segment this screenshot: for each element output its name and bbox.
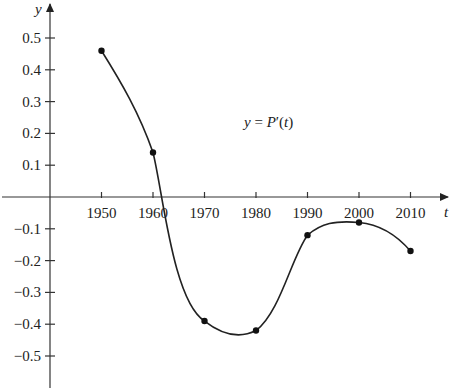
y-tick-label: 0.1	[22, 157, 41, 173]
y-tick-label: 0.2	[22, 125, 41, 141]
y-tick-label: 0.3	[22, 94, 41, 110]
y-tick-label: 0.4	[22, 62, 41, 78]
y-tick-label: −0.2	[14, 253, 41, 269]
y-tick-label: −0.1	[14, 221, 41, 237]
x-ticks: 1950196019701980199020002010	[87, 192, 426, 221]
data-point	[407, 248, 413, 254]
x-tick-label: 2000	[344, 205, 374, 221]
data-point	[201, 318, 207, 324]
y-tick-label: 0.5	[22, 30, 41, 46]
x-tick-label: 2010	[396, 205, 426, 221]
y-tick-label: −0.4	[14, 316, 42, 332]
curve-annotation: y = P′(t)	[242, 114, 293, 131]
x-tick-label: 1970	[190, 205, 220, 221]
data-point	[253, 327, 259, 333]
x-axis-label: t	[444, 204, 449, 220]
y-tick-label: −0.5	[14, 348, 41, 364]
x-tick-label: 1990	[293, 205, 323, 221]
data-points	[98, 48, 413, 334]
y-tick-label: −0.3	[14, 284, 41, 300]
data-point	[304, 232, 310, 238]
data-point	[150, 149, 156, 155]
x-tick-label: 1980	[241, 205, 271, 221]
chart-canvas: 0.50.40.30.20.1−0.1−0.2−0.3−0.4−0.5 1950…	[0, 0, 456, 391]
x-tick-label: 1950	[87, 205, 117, 221]
data-point	[356, 219, 362, 225]
y-axis-label: y	[33, 1, 42, 17]
data-point	[98, 48, 104, 54]
